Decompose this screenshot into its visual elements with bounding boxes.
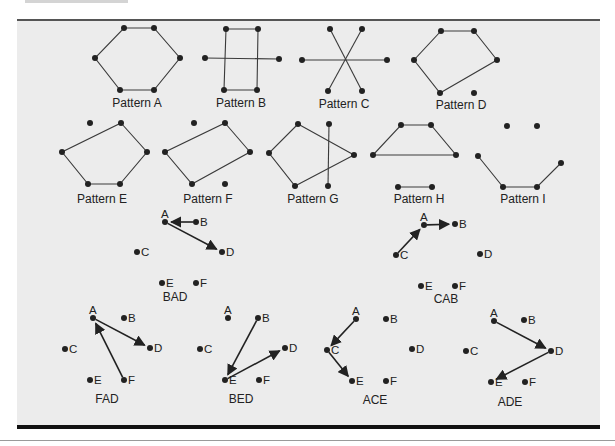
point-label: B — [528, 314, 536, 326]
arrow-a-to-d — [96, 319, 145, 345]
sequence-bed: ABCDEFBED — [197, 304, 297, 406]
dot — [92, 55, 98, 61]
dot — [117, 181, 123, 187]
sequence-caption: ADE — [498, 395, 523, 409]
pattern-caption: Pattern D — [436, 98, 487, 112]
sequence-caption: BAD — [163, 290, 188, 304]
point-label: D — [226, 246, 234, 258]
patterns-group: Pattern APattern BPattern CPattern DPatt… — [59, 25, 564, 206]
dot — [299, 57, 305, 63]
pattern-e: Pattern E — [59, 120, 150, 206]
dot — [255, 26, 261, 32]
point-c — [197, 346, 203, 352]
sequence-caption: ACE — [363, 393, 388, 407]
point-b — [521, 317, 527, 323]
point-d — [477, 251, 483, 257]
point-b — [121, 315, 127, 321]
point-label: E — [166, 277, 174, 289]
pattern-caption: Pattern B — [216, 96, 266, 110]
dot — [384, 57, 390, 63]
dot — [471, 90, 477, 96]
dot — [326, 121, 332, 127]
point-e — [418, 283, 424, 289]
point-c — [324, 347, 330, 353]
arrow-a-to-d — [168, 223, 217, 249]
pattern-outline — [269, 124, 354, 186]
pattern-outline — [224, 29, 258, 90]
dot — [504, 123, 510, 129]
pattern-diagram: Pattern APattern BPattern CPattern DPatt… — [0, 0, 615, 446]
dot — [292, 183, 298, 189]
point-c — [393, 252, 399, 258]
point-label: B — [262, 312, 270, 324]
arrow-d-to-e — [496, 352, 548, 379]
dot — [370, 152, 376, 158]
dot — [222, 120, 228, 126]
dot — [266, 150, 272, 156]
dot — [144, 149, 150, 155]
dot — [151, 25, 157, 31]
point-d — [409, 346, 415, 352]
point-c — [463, 348, 469, 354]
sequences-group: ABCDEFBADABCDEFCABABCDEFFADABCDEFBEDABCD… — [62, 208, 563, 409]
point-f — [383, 378, 389, 384]
pattern-f: Pattern F — [162, 120, 253, 206]
dot — [325, 88, 331, 94]
point-label: A — [352, 305, 360, 317]
point-label: B — [200, 216, 208, 228]
pattern-line — [328, 124, 329, 186]
point-label: E — [425, 280, 433, 292]
arrow-a-to-d — [497, 322, 546, 348]
point-label: C — [331, 344, 339, 356]
dot — [87, 120, 93, 126]
point-label: C — [400, 249, 408, 261]
pattern-g: Pattern G — [266, 121, 357, 206]
dot — [189, 181, 195, 187]
sequence-cab: ABCDEFCAB — [393, 211, 492, 306]
dot — [359, 26, 365, 32]
point-label: A — [420, 211, 428, 223]
dot — [327, 26, 333, 32]
point-label: A — [89, 304, 97, 316]
point-e — [488, 379, 494, 385]
pattern-caption: Pattern I — [500, 192, 545, 206]
point-label: F — [263, 374, 270, 386]
point-label: B — [128, 312, 136, 324]
point-label: C — [470, 345, 478, 357]
dot — [223, 26, 229, 32]
pattern-path — [478, 156, 561, 187]
point-b — [255, 315, 261, 321]
dot — [429, 184, 435, 190]
point-b — [193, 219, 199, 225]
dot — [534, 123, 540, 129]
sequence-ace: ABCDEFACE — [324, 305, 424, 407]
point-e — [349, 378, 355, 384]
point-label: D — [154, 342, 162, 354]
point-label: E — [356, 375, 364, 387]
point-label: A — [161, 208, 169, 220]
dot — [121, 25, 127, 31]
dot — [359, 88, 365, 94]
point-f — [522, 379, 528, 385]
sequence-ade: ABCDEFADE — [463, 307, 563, 409]
dot — [558, 160, 564, 166]
point-d — [548, 348, 554, 354]
point-c — [62, 346, 68, 352]
point-label: C — [204, 343, 212, 355]
point-label: D — [484, 248, 492, 260]
pattern-line — [205, 58, 279, 59]
pattern-outline — [95, 28, 180, 90]
pattern-h: Pattern H — [370, 122, 459, 206]
point-c — [134, 249, 140, 255]
point-label: B — [459, 218, 467, 230]
pattern-caption: Pattern E — [77, 192, 127, 206]
point-label: D — [555, 345, 563, 357]
dot — [351, 152, 357, 158]
point-f — [121, 377, 127, 383]
dot — [151, 87, 157, 93]
pattern-c: Pattern C — [299, 26, 390, 111]
pattern-b: Pattern B — [202, 26, 282, 110]
dot — [471, 28, 477, 34]
dot — [437, 90, 443, 96]
point-label: A — [224, 304, 232, 316]
